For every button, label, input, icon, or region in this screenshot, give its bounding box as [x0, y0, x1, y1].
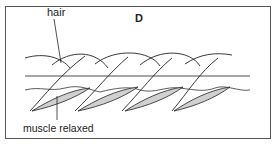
panel-label: D: [135, 12, 143, 24]
hair-arc-5: [185, 54, 232, 64]
muscle-label: muscle relaxed: [23, 122, 94, 134]
hair-arcs: [25, 53, 232, 68]
hair-label: hair: [47, 6, 65, 18]
hair-leader-line: [54, 19, 61, 63]
